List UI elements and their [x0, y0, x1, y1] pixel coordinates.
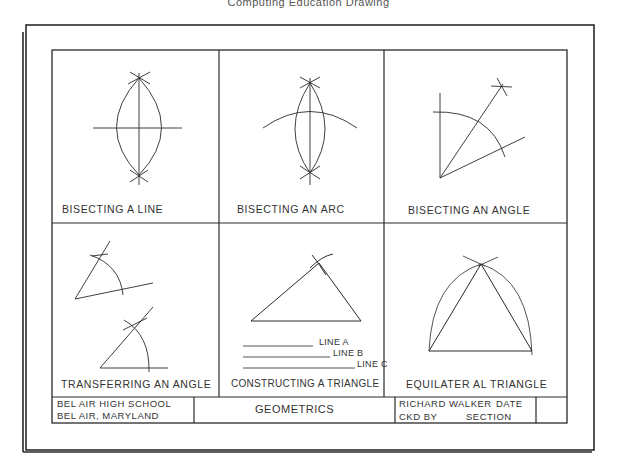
panel-title-bisecting-angle: BISECTING AN ANGLE [408, 204, 530, 216]
checked-by-label: CKD BY [399, 411, 437, 422]
panel-title-equilateral-triangle: EQUILATER AL TRIANGLE [406, 378, 547, 390]
line-b-label: LINE B [333, 348, 363, 358]
date-label: DATE [496, 398, 523, 409]
panel-title-bisecting-line: BISECTING A LINE [62, 203, 163, 215]
panel-title-transferring-angle: TRANSFERRING AN ANGLE [61, 378, 211, 390]
bisecting-arc-figure [263, 77, 357, 185]
bisecting-angle-figure [433, 78, 525, 178]
bisecting-line-figure [93, 72, 182, 185]
panel-title-bisecting-arc: BISECTING AN ARC [237, 203, 345, 215]
drawing-title: GEOMETRICS [194, 403, 395, 415]
school-location: BEL AIR, MARYLAND [57, 410, 159, 421]
author-name: RICHARD WALKER [399, 398, 492, 409]
school-name: BEL AIR HIGH SCHOOL [57, 398, 171, 409]
section-label: SECTION [466, 411, 512, 422]
line-a-label: LINE A [319, 337, 349, 347]
panel-title-constructing-triangle: CONSTRUCTING A TRIANGLE [231, 378, 379, 389]
transferring-angle-figure [75, 241, 168, 372]
line-c-label: LINE C [357, 359, 388, 369]
equilateral-triangle-figure [429, 256, 532, 355]
inner-grid [52, 50, 567, 423]
